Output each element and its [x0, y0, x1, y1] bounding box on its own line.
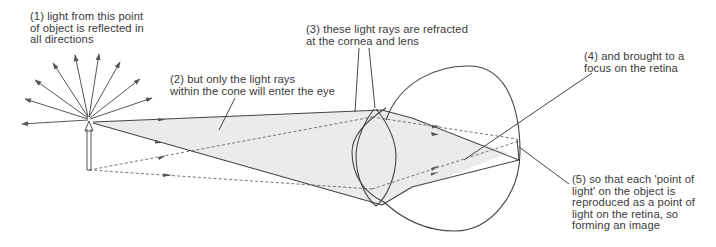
leader-step5 [519, 147, 569, 184]
label-step3: (3) these light rays are refracted at th… [306, 24, 468, 47]
label-step2: (2) but only the light rays within the c… [170, 74, 335, 97]
light-cone [93, 110, 508, 205]
object-arrow [85, 121, 93, 170]
label-step1: (1) light from this point of object is r… [30, 11, 144, 46]
label-step4: (4) and brought to a focus on the retina [584, 51, 684, 74]
label-step5: (5) so that each 'point of light' on the… [572, 174, 695, 232]
leader-step3a [355, 48, 359, 112]
leader-step3b [369, 48, 375, 108]
radiating-rays [22, 54, 152, 124]
retina-focus-point [517, 139, 519, 160]
leader-step4 [464, 73, 592, 160]
